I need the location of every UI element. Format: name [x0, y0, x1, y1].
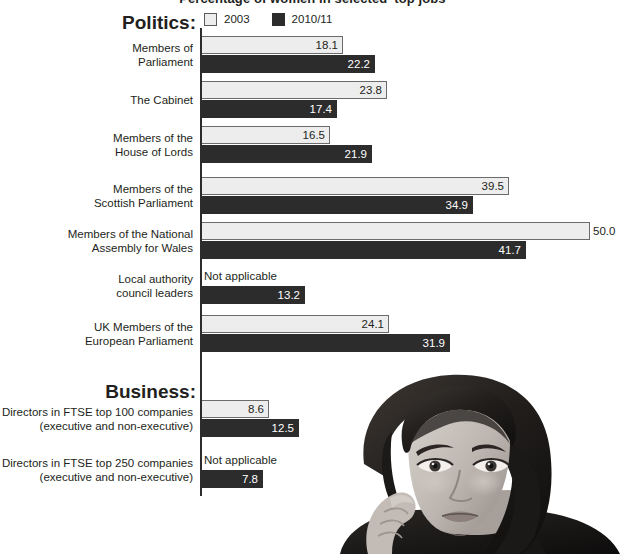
chart-row-bars: 8.612.5 [202, 400, 299, 437]
bar-value-2010-11: 22.2 [348, 58, 374, 70]
bar-value-2010-11: 13.2 [278, 289, 304, 301]
not-applicable-label: Not applicable [202, 451, 277, 469]
bar-value-2010-11: 41.7 [499, 244, 525, 256]
bar-value-2010-11: 17.4 [310, 103, 336, 115]
bar-value-2010-11: 21.9 [345, 148, 371, 160]
bar-value-2003: 18.1 [316, 39, 342, 51]
chart-row-label-line: European Parliament [0, 334, 193, 348]
chart-row: UK Members of theEuropean Parliament24.1… [0, 315, 628, 353]
chart-row: The Cabinet23.817.4 [0, 81, 628, 119]
chart-row: Members of theHouse of Lords16.521.9 [0, 126, 628, 164]
bar-value-2010-11: 31.9 [423, 337, 449, 349]
chart-row-bars: 39.534.9 [202, 177, 509, 214]
chart-row-label: UK Members of theEuropean Parliament [0, 320, 193, 348]
bar-value-2003: 50.0 [589, 225, 615, 237]
bar-2010-11: 13.2 [202, 286, 305, 304]
chart-row-bars: 23.817.4 [202, 81, 387, 118]
bar-2003: 23.8 [202, 81, 387, 99]
chart-row-label-line: council leaders [0, 286, 193, 300]
chart-row-label-line: Scottish Parliament [0, 196, 193, 210]
chart-row-label-line: Members of [0, 41, 193, 55]
chart-row-label-line: (executive and non-executive) [0, 470, 193, 484]
chart-row-label-line: Parliament [0, 55, 193, 69]
chart-row-label-line: Assembly for Wales [0, 241, 193, 255]
chart-row-label: Members of theHouse of Lords [0, 131, 193, 159]
bar-value-2003: 16.5 [303, 129, 329, 141]
bar-2010-11: 22.2 [202, 55, 375, 73]
chart-row-label: Local authoritycouncil leaders [0, 272, 193, 300]
chart-row-bars: Not applicable7.8 [202, 451, 277, 488]
chart-row-label: Members ofParliament [0, 41, 193, 69]
chart-page: Percentage of women in selected 'top job… [0, 0, 628, 554]
chart-row-bars: 18.122.2 [202, 36, 375, 73]
chart-row-label-line: Directors in FTSE top 100 companies [0, 405, 193, 419]
bar-2010-11: 31.9 [202, 334, 450, 352]
chart-row-label-line: House of Lords [0, 145, 193, 159]
light-square-icon [204, 13, 217, 26]
section-heading-politics: Politics: [0, 12, 196, 34]
bar-2010-11: 12.5 [202, 419, 299, 437]
chart-row: Local authoritycouncil leadersNot applic… [0, 267, 628, 305]
bar-value-2003: 8.6 [248, 403, 268, 415]
bar-2010-11: 17.4 [202, 100, 337, 118]
chart-row-label-line: Directors in FTSE top 250 companies [0, 456, 193, 470]
bar-2010-11: 34.9 [202, 196, 473, 214]
bar-2010-11: 7.8 [202, 470, 263, 488]
chart-row-bars: 50.041.7 [202, 222, 590, 259]
bar-2003: 24.1 [202, 315, 389, 333]
chart-row-label: The Cabinet [0, 93, 193, 107]
not-applicable-label: Not applicable [202, 267, 305, 285]
chart-row-label-line: Members of the National [0, 227, 193, 241]
chart-row-label-line: UK Members of the [0, 320, 193, 334]
legend-label-2003: 2003 [224, 13, 250, 25]
legend-item-2003: 2003 [204, 13, 250, 26]
chart-row-label-line: Members of the [0, 182, 193, 196]
chart-title: Percentage of women in selected 'top job… [0, 0, 628, 6]
portrait-photo-woman [332, 372, 628, 554]
chart-row: Members of the NationalAssembly for Wale… [0, 222, 628, 260]
bar-value-2010-11: 7.8 [242, 473, 262, 485]
chart-row-label-line: Local authority [0, 272, 193, 286]
chart-row-label-line: The Cabinet [0, 93, 193, 107]
chart-row-bars: 24.131.9 [202, 315, 450, 352]
dark-square-icon [272, 13, 285, 26]
bar-2003: 39.5 [202, 177, 509, 195]
bar-2003: 50.0 [202, 222, 590, 240]
chart-row: Members of theScottish Parliament39.534.… [0, 177, 628, 215]
bar-2010-11: 41.7 [202, 241, 526, 259]
chart-legend: 2003 2010/11 [204, 11, 332, 27]
bar-2010-11: 21.9 [202, 145, 372, 163]
bar-2003: 8.6 [202, 400, 269, 418]
chart-row-label: Members of the NationalAssembly for Wale… [0, 227, 193, 255]
chart-row-label: Directors in FTSE top 100 companies(exec… [0, 405, 193, 433]
bar-value-2003: 39.5 [482, 180, 508, 192]
bar-2003: 18.1 [202, 36, 343, 54]
chart-row-label: Directors in FTSE top 250 companies(exec… [0, 456, 193, 484]
legend-item-2010-11: 2010/11 [272, 13, 333, 26]
legend-label-2010-11: 2010/11 [292, 13, 333, 25]
bar-value-2003: 23.8 [360, 84, 386, 96]
bar-value-2003: 24.1 [362, 318, 388, 330]
bar-value-2010-11: 12.5 [272, 422, 298, 434]
bar-value-2010-11: 34.9 [446, 199, 472, 211]
bar-2003: 16.5 [202, 126, 330, 144]
chart-row-label-line: Members of the [0, 131, 193, 145]
chart-row-label: Members of theScottish Parliament [0, 182, 193, 210]
chart-row-label-line: (executive and non-executive) [0, 419, 193, 433]
chart-row-bars: Not applicable13.2 [202, 267, 305, 304]
chart-row: Members ofParliament18.122.2 [0, 36, 628, 74]
chart-row-bars: 16.521.9 [202, 126, 372, 163]
